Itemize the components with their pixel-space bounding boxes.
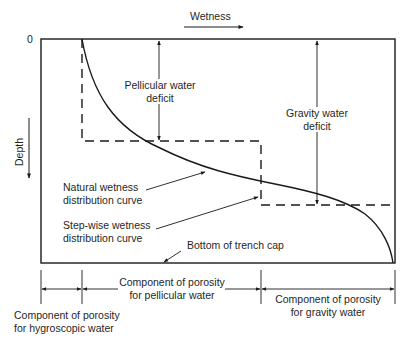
gravity-deficit-label: Gravity water deficit	[276, 107, 358, 132]
pellicular-porosity-line1: Component of porosity	[118, 276, 226, 289]
gravity-deficit-line1: Gravity water	[276, 107, 358, 120]
pellicular-porosity-label: Component of porosity for pellicular wat…	[118, 276, 226, 301]
bottom-cap-leader	[164, 251, 181, 262]
pellicular-deficit-line2: deficit	[115, 92, 205, 105]
gravity-porosity-line2: for gravity water	[272, 306, 384, 319]
natural-curve-line1: Natural wetness	[63, 181, 142, 194]
bottom-of-trench-cap-label: Bottom of trench cap	[187, 239, 284, 252]
hygroscopic-porosity-line2: for hygroscopic water	[14, 322, 120, 335]
stepwise-curve-leader	[156, 197, 258, 229]
natural-curve-line2: distribution curve	[63, 194, 142, 207]
stepwise-curve-label: Step-wise wetness distribution curve	[63, 219, 151, 244]
depth-axis-label: Depth	[13, 137, 25, 167]
gravity-porosity-line1: Component of porosity	[272, 293, 384, 306]
pellicular-deficit-line1: Pellicular water	[115, 79, 205, 92]
hygroscopic-porosity-label: Component of porosity for hygroscopic wa…	[14, 309, 120, 334]
stepwise-curve-line1: Step-wise wetness	[63, 219, 151, 232]
gravity-porosity-label: Component of porosity for gravity water	[272, 293, 384, 318]
wetness-axis-label: Wetness	[190, 10, 231, 23]
gravity-deficit-line2: deficit	[276, 120, 358, 133]
hygroscopic-porosity-line1: Component of porosity	[14, 309, 120, 322]
origin-label: 0	[27, 33, 33, 46]
natural-curve-leader	[146, 172, 205, 190]
pellicular-deficit-label: Pellicular water deficit	[115, 79, 205, 104]
pellicular-porosity-line2: for pellicular water	[118, 289, 226, 302]
stepwise-curve-line2: distribution curve	[63, 232, 151, 245]
natural-curve-label: Natural wetness distribution curve	[63, 181, 142, 206]
